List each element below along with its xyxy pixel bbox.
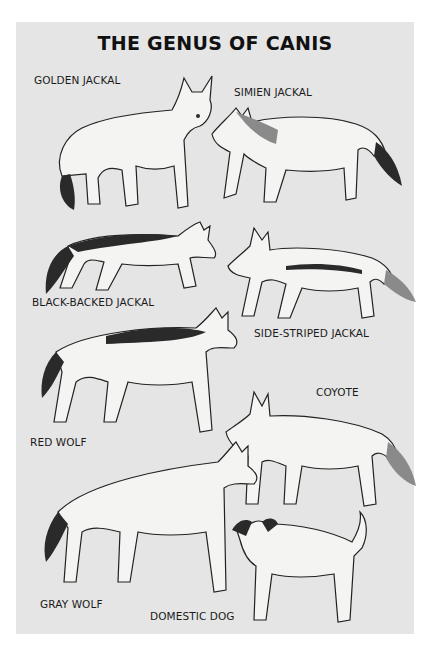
red-wolf-illustration <box>36 302 246 442</box>
black-backed-jackal-illustration <box>38 218 228 298</box>
page-title: THE GENUS OF CANIS <box>16 32 414 54</box>
illustration-panel: THE GENUS OF CANIS GOLDEN JACKAL SIMIEN … <box>16 22 414 634</box>
golden-jackal-illustration <box>52 66 222 216</box>
label-side-striped-jackal: SIDE-STRIPED JACKAL <box>254 327 369 339</box>
side-striped-jackal-illustration <box>222 222 422 322</box>
simien-jackal-illustration <box>206 94 416 214</box>
domestic-dog-illustration <box>222 508 382 628</box>
